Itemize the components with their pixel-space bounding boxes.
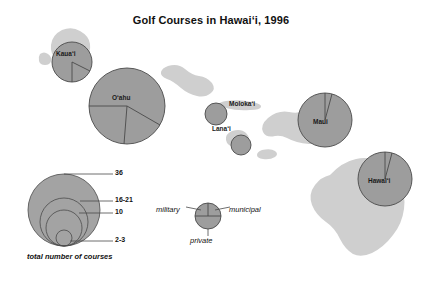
pie-molokai[interactable] xyxy=(205,103,227,125)
island-label-lanai: Lana‘i xyxy=(212,125,231,132)
island-label-oahu: O‘ahu xyxy=(112,94,130,101)
category-legend[interactable] xyxy=(186,203,230,236)
category-label-private: private xyxy=(190,236,213,245)
oahu-silhouette xyxy=(161,65,214,97)
island-label-maui: Maui xyxy=(313,118,328,125)
island-label-hawaii: Hawai‘i xyxy=(368,177,390,184)
pie-kauai[interactable] xyxy=(52,42,92,82)
pie-oahu[interactable] xyxy=(89,68,165,144)
pie-molokai-body xyxy=(205,103,227,125)
size-legend-label-2-3: 2-3 xyxy=(115,236,125,243)
pie-lanai[interactable] xyxy=(231,135,251,155)
size-legend-label-10: 10 xyxy=(115,208,123,215)
category-label-military: military xyxy=(156,205,180,214)
island-label-kauai: Kaua‘i xyxy=(56,50,76,57)
size-legend-label-36: 36 xyxy=(115,169,123,176)
kahoolawe-silhouette xyxy=(257,149,277,159)
category-label-municipal: municipal xyxy=(229,205,261,214)
niihau-silhouette xyxy=(39,53,52,66)
pie-lanai-body xyxy=(231,135,251,155)
size-legend-label-16-21: 16-21 xyxy=(115,196,133,203)
island-label-molokai: Moloka‘i xyxy=(229,100,255,107)
size-legend-caption: total number of courses xyxy=(27,252,112,261)
figure-page: Golf Courses in Hawai‘i, 1996 xyxy=(0,0,422,287)
size-legend xyxy=(28,174,113,246)
